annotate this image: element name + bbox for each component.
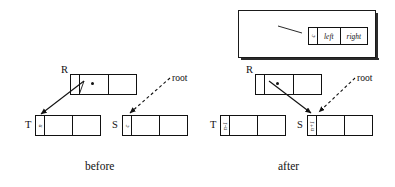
figure-canvas: reference count c left right R T n <box>0 0 395 187</box>
legend-leader-line <box>278 26 302 33</box>
after-arrow-root-to-s <box>319 78 355 112</box>
after-arrow-r-to-s <box>269 81 311 113</box>
before-arrow-root-to-s <box>130 78 170 113</box>
caption-before: before <box>85 160 114 172</box>
before-arrow-r-to-t <box>41 81 84 114</box>
caption-after: after <box>278 160 299 172</box>
connector-layer <box>0 0 395 187</box>
